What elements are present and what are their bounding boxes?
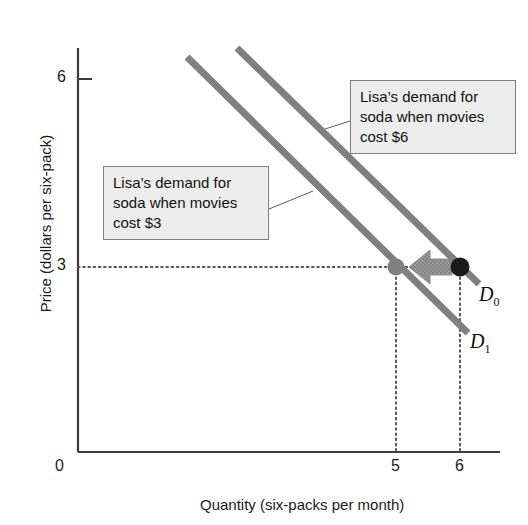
curve-label-d0-letter: D xyxy=(479,283,493,305)
curve-label-d0: D0 xyxy=(479,283,499,310)
demand-shift-figure: Price (dollars per six-pack) Quantity (s… xyxy=(0,0,528,525)
curve-label-d1: D1 xyxy=(470,330,490,357)
point-d1-equilibrium xyxy=(388,259,405,276)
origin-label: 0 xyxy=(55,457,64,475)
y-tick-label-3: 3 xyxy=(57,256,66,274)
callout-box-d0: Lisa’s demand for soda when movies cost … xyxy=(350,80,516,154)
curve-label-d1-subscript: 1 xyxy=(484,342,490,356)
curve-label-d0-subscript: 0 xyxy=(493,295,499,309)
callout-box-d1: Lisa’s demand for soda when movies cost … xyxy=(103,166,269,240)
reference-lines xyxy=(78,267,462,452)
leader-line-d1 xyxy=(269,191,313,209)
x-tick-label-5: 5 xyxy=(391,457,400,475)
chart-canvas xyxy=(0,0,528,525)
leader-line-d0 xyxy=(325,121,350,129)
curve-label-d1-letter: D xyxy=(470,330,484,352)
x-axis-title: Quantity (six-packs per month) xyxy=(200,496,404,513)
y-axis-title: Price (dollars per six-pack) xyxy=(37,99,54,349)
point-d0-equilibrium xyxy=(451,258,470,277)
y-tick-label-6: 6 xyxy=(57,68,66,86)
x-tick-label-6: 6 xyxy=(455,457,464,475)
callout-leader-lines xyxy=(269,121,350,209)
